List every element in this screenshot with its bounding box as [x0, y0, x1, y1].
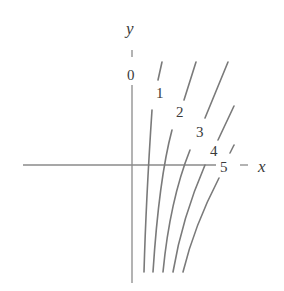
level-curve-5-upper	[230, 145, 234, 153]
level-curve-1-lower	[144, 110, 152, 272]
curve-label-3: 3	[196, 124, 204, 140]
level-curve-1-upper	[158, 62, 162, 80]
diagram-canvas: y x 0 1 2 3 4 5	[0, 0, 284, 291]
curve-label-4: 4	[210, 143, 218, 159]
level-curve-2-lower	[153, 130, 172, 272]
curve-label-1: 1	[156, 85, 164, 101]
curve-label-0: 0	[127, 67, 135, 83]
y-axis-label: y	[124, 19, 134, 38]
level-curve-5-lower	[183, 178, 219, 272]
curve-label-5: 5	[220, 159, 228, 175]
level-curve-2-upper	[184, 62, 196, 100]
level-curve-4-upper	[218, 106, 234, 140]
curve-label-2: 2	[176, 104, 184, 120]
level-curve-diagram: y x 0 1 2 3 4 5	[0, 0, 284, 291]
x-axis-label: x	[257, 157, 266, 176]
level-curve-3-upper	[205, 62, 228, 118]
